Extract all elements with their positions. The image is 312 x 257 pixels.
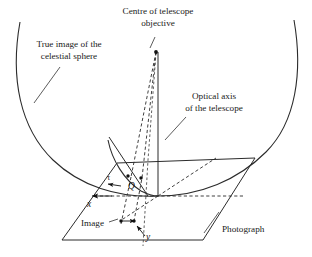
leader-optical-axis <box>165 117 186 140</box>
plane-axes <box>92 158 243 236</box>
label-axis-y: y <box>145 232 151 242</box>
label-angle-tau: τ <box>107 173 111 182</box>
label-point-q: Q <box>128 181 135 191</box>
text-labels: Centre of telescope objective True image… <box>36 6 264 242</box>
leader-centre-objective <box>150 37 155 48</box>
label-optical-axis-line2: of the telescope <box>185 103 243 113</box>
leader-image <box>109 219 118 222</box>
label-centre-objective-line2: objective <box>141 18 175 28</box>
label-centre-objective-line1: Centre of telescope <box>123 6 194 16</box>
ray-bundle <box>109 52 156 246</box>
point-q-marker <box>126 174 129 177</box>
leader-true-image <box>34 67 60 103</box>
label-photograph: Photograph <box>222 224 265 234</box>
tau-angle-arrow <box>108 184 121 186</box>
leader-lines <box>34 37 219 233</box>
optics-diagram-canvas: Centre of telescope objective True image… <box>0 0 312 257</box>
plane-diagonal-guide-upper <box>158 158 216 196</box>
diagram-svg: Centre of telescope objective True image… <box>0 0 312 257</box>
image-point-marker-secondary <box>132 219 135 222</box>
leader-photograph <box>204 212 219 233</box>
label-true-image-line1: True image of the <box>36 39 101 49</box>
ray-apex-to-q <box>131 52 156 177</box>
apex-point-centre-objective <box>154 50 158 54</box>
label-axis-x: x <box>86 199 92 209</box>
point-q-marker-secondary <box>139 176 142 179</box>
label-true-image-line2: celestial sphere <box>41 51 97 61</box>
image-point-marker <box>119 219 122 222</box>
label-optical-axis-line1: Optical axis <box>192 91 237 101</box>
label-image: Image <box>81 218 104 228</box>
